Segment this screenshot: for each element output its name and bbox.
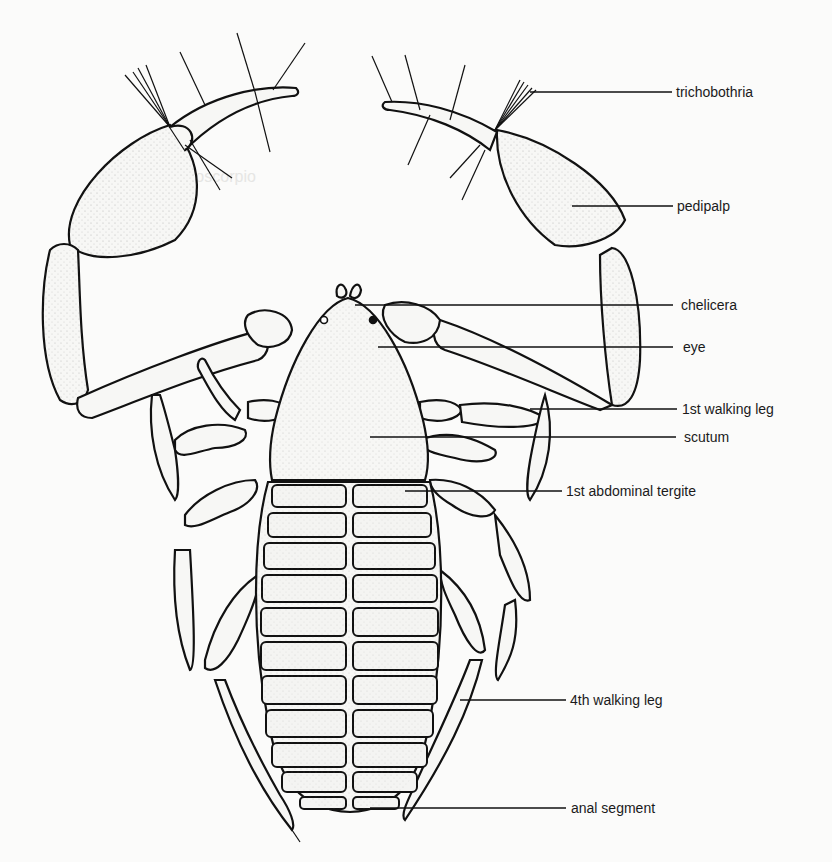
- diagram-page: Pseudoscorpio: [0, 0, 832, 862]
- chelicera: [337, 285, 347, 298]
- label-chelicera: chelicera: [681, 297, 737, 313]
- right-eye: [370, 317, 377, 324]
- abdomen: [256, 482, 441, 812]
- label-4th-walking-leg: 4th walking leg: [570, 692, 663, 708]
- right-pedipalp: [372, 55, 640, 410]
- label-eye: eye: [683, 339, 706, 355]
- label-1st-abdominal-tergite: 1st abdominal tergite: [566, 483, 696, 499]
- label-scutum: scutum: [684, 429, 729, 445]
- label-1st-walking-leg: 1st walking leg: [682, 401, 774, 417]
- left-pedipalp: [43, 33, 305, 418]
- label-trichobothria: trichobothria: [676, 84, 753, 100]
- label-anal-segment: anal segment: [571, 800, 655, 816]
- left-eye: [321, 317, 328, 324]
- label-pedipalp: pedipalp: [677, 198, 730, 214]
